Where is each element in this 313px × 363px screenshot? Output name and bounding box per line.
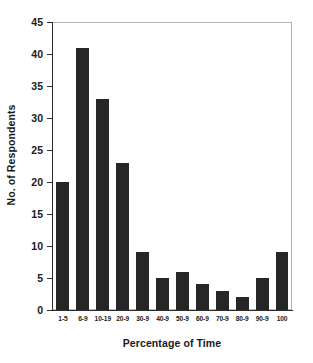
x-axis-tick-label: 40-9 <box>153 315 173 323</box>
bar <box>236 297 249 310</box>
y-axis-tick <box>47 150 52 151</box>
bar-slot <box>232 22 252 310</box>
bar <box>216 291 229 310</box>
y-axis-tick <box>47 182 52 183</box>
x-axis-tick-label: 30-9 <box>133 315 153 323</box>
y-axis-tick-label: 45 <box>3 17 43 27</box>
bar-slot <box>212 22 232 310</box>
x-axis-tick-label: 80-9 <box>232 315 252 323</box>
bar-slot <box>252 22 272 310</box>
y-axis-tick <box>47 118 52 119</box>
bar-slot <box>73 22 93 310</box>
bar-slot <box>53 22 73 310</box>
x-axis-tick-label: 6-9 <box>73 315 93 323</box>
y-axis-tick-label: 5 <box>3 273 43 283</box>
x-axis-tick-label: 70-9 <box>212 315 232 323</box>
bar <box>196 284 209 310</box>
y-axis-tick-label: 25 <box>3 145 43 155</box>
bar <box>156 278 169 310</box>
y-axis-tick-label: 15 <box>3 209 43 219</box>
bar-slot <box>192 22 212 310</box>
bar-slot <box>133 22 153 310</box>
bar <box>96 99 109 310</box>
y-axis-tick-label: 0 <box>3 305 43 315</box>
bars-layer <box>53 22 292 310</box>
y-axis-tick <box>47 54 52 55</box>
y-axis-tick <box>47 214 52 215</box>
x-axis-tick-label: 20-9 <box>113 315 133 323</box>
bar <box>176 272 189 310</box>
x-axis-tick-label: 50-9 <box>173 315 193 323</box>
bar <box>256 278 269 310</box>
y-axis-tick <box>47 278 52 279</box>
y-axis-tick <box>47 86 52 87</box>
x-axis-tick-label: 1-5 <box>53 315 73 323</box>
bar <box>276 252 289 310</box>
y-axis-tick <box>47 310 52 311</box>
y-axis-tick-label: 30 <box>3 113 43 123</box>
bar <box>76 48 89 310</box>
bar-slot <box>173 22 193 310</box>
bar <box>56 182 69 310</box>
x-axis-title: Percentage of Time <box>52 337 292 349</box>
y-axis-tick <box>47 22 52 23</box>
bar-slot <box>113 22 133 310</box>
x-axis-tick-label: 10-19 <box>93 315 113 323</box>
y-axis-tick-label: 10 <box>3 241 43 251</box>
y-axis-tick-label: 40 <box>3 49 43 59</box>
y-axis-tick-label: 35 <box>3 81 43 91</box>
bar-slot <box>153 22 173 310</box>
y-axis-tick-label: 20 <box>3 177 43 187</box>
y-axis-tick <box>47 246 52 247</box>
x-axis-spine <box>52 310 293 311</box>
bar-chart: No. of Respondents 454035302520151050 1-… <box>0 0 313 363</box>
bar <box>136 252 149 310</box>
bar-slot <box>272 22 292 310</box>
x-axis-tick-label: 100 <box>272 315 292 323</box>
x-axis-tick-label: 90-9 <box>252 315 272 323</box>
bar-slot <box>93 22 113 310</box>
x-axis-tick-label: 60-9 <box>192 315 212 323</box>
bar <box>116 163 129 310</box>
